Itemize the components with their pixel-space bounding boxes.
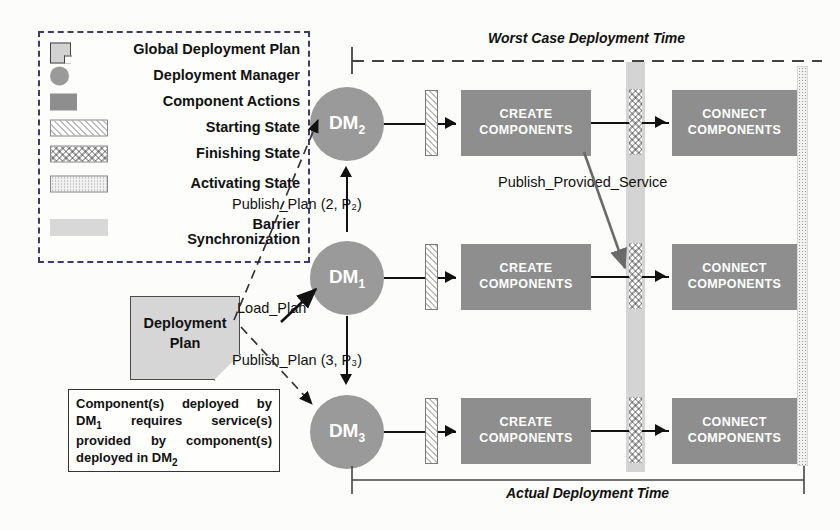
dm2-label: DM2	[329, 112, 365, 137]
starting-state-symbol-icon	[50, 120, 108, 137]
publish-provided-service-label: Publish_Provided_Service	[498, 174, 667, 190]
deployment-plan-line2: Plan	[170, 335, 201, 351]
finishing-state-symbol-icon	[50, 146, 108, 163]
starting-state-bar-row1	[425, 90, 438, 156]
create-components-label: CREATECOMPONENTS	[479, 261, 573, 292]
actual-deployment-time-label: Actual Deployment Time	[506, 485, 669, 501]
deployment-manager-symbol-icon	[50, 67, 69, 86]
deployment-plan-line1: Deployment	[144, 315, 227, 331]
connect-components-box-row3[interactable]: CONNECTCOMPONENTS	[672, 398, 797, 464]
connect-components-box-row1[interactable]: CONNECTCOMPONENTS	[672, 90, 797, 156]
connect-components-label: CONNECTCOMPONENTS	[688, 261, 782, 292]
publish-plan-2-arrowhead	[340, 166, 352, 177]
create-components-box-row3[interactable]: CREATECOMPONENTS	[461, 398, 591, 464]
legend-item-barrier-synchronization: Barrier Synchronization	[40, 209, 308, 255]
legend-box: Global Deployment Plan Deployment Manage…	[38, 31, 310, 263]
dm1-label: DM1	[329, 266, 365, 291]
legend-item-activating-state: Activating State	[40, 171, 308, 197]
barrier-synchronization-symbol-icon	[50, 219, 108, 236]
legend-item-deployment-manager: Deployment Manager	[40, 63, 308, 89]
connect-components-label: CONNECTCOMPONENTS	[688, 415, 782, 446]
create-to-connect-arrowhead-row3	[655, 424, 666, 436]
deployment-manager-dm2[interactable]: DM2	[310, 87, 384, 161]
deployment-manager-dm1[interactable]: DM1	[310, 241, 384, 315]
legend-item-starting-state: Starting State	[40, 115, 308, 141]
legend-item-global-deployment-plan: Global Deployment Plan	[40, 37, 308, 63]
diagram-canvas: Global Deployment Plan Deployment Manage…	[0, 0, 840, 530]
create-to-connect-arrowhead-row1	[655, 116, 666, 128]
starting-state-bar-row2	[425, 244, 438, 310]
create-components-box-row1[interactable]: CREATECOMPONENTS	[461, 90, 591, 156]
connect-components-label: CONNECTCOMPONENTS	[688, 107, 782, 138]
worst-case-deployment-time-label: Worst Case Deployment Time	[488, 30, 685, 46]
create-components-box-row2[interactable]: CREATECOMPONENTS	[461, 244, 591, 310]
dm1-to-create-arrowhead	[445, 271, 456, 283]
activating-state-symbol-icon	[50, 176, 108, 193]
finishing-state-bar-row2	[629, 243, 642, 309]
connect-components-box-row2[interactable]: CONNECTCOMPONENTS	[672, 244, 797, 310]
legend-label: Finishing State	[196, 146, 300, 161]
finishing-state-bar-row1	[629, 89, 642, 155]
global-deployment-plan-symbol-icon	[50, 42, 71, 63]
legend-item-component-actions: Component Actions	[40, 89, 308, 115]
legend-item-finishing-state: Finishing State	[40, 141, 308, 167]
legend-label: Global Deployment Plan	[133, 42, 300, 57]
deployment-plan-label: Deployment Plan	[131, 314, 239, 353]
dm3-to-create-arrowhead	[445, 425, 456, 437]
publish-plan-2-label: Publish_Plan (2, P₂)	[232, 196, 362, 212]
legend-label: Activating State	[190, 176, 300, 191]
annotation-note-text: Component(s) deployed by DM1 requires se…	[76, 396, 272, 465]
dm2-to-create-arrowhead	[445, 117, 456, 129]
legend-label: Starting State	[206, 120, 300, 135]
legend-label: Component Actions	[163, 94, 300, 109]
activating-state-column	[797, 66, 808, 466]
legend-label: Barrier Synchronization	[187, 217, 300, 247]
create-components-label: CREATECOMPONENTS	[479, 107, 573, 138]
publish-plan-3-arrowhead	[340, 374, 352, 385]
dm3-label: DM3	[329, 420, 365, 445]
starting-state-bar-row3	[425, 398, 438, 464]
load-plan-label: Load_Plan	[237, 300, 306, 316]
create-to-connect-arrowhead-row2	[655, 270, 666, 282]
deployment-plan-document[interactable]: Deployment Plan	[130, 296, 240, 380]
create-components-label: CREATECOMPONENTS	[479, 415, 573, 446]
annotation-note-box: Component(s) deployed by DM1 requires se…	[68, 389, 280, 472]
deployment-manager-dm3[interactable]: DM3	[310, 395, 384, 469]
component-actions-symbol-icon	[50, 94, 77, 111]
publish-plan-3-label: Publish_Plan (3, P₃)	[232, 352, 362, 368]
finishing-state-bar-row3	[629, 397, 642, 463]
legend-label: Deployment Manager	[153, 68, 300, 83]
